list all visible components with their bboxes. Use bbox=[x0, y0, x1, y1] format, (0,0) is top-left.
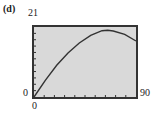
plot-frame bbox=[33, 26, 137, 98]
plot-area bbox=[0, 0, 154, 116]
